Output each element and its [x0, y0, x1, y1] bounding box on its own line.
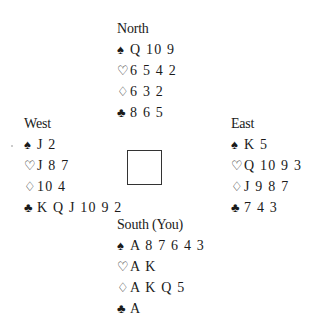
suit-row-spades: ♠A 8 7 6 4 3: [117, 235, 205, 256]
hand-south: South (You) ♠A 8 7 6 4 3 ♡A K ♢A K Q 5 ♣…: [117, 214, 205, 319]
cards-clubs: A: [130, 301, 141, 316]
suit-row-spades: ♠Q 10 9: [117, 39, 177, 60]
hand-west: West ♠J 2 ♡J 8 7 ♢10 4 ♣K Q J 10 9 2: [24, 113, 123, 218]
diamond-icon: ♢: [24, 176, 37, 197]
club-icon: ♣: [117, 298, 130, 319]
suit-row-hearts: ♡J 8 7: [24, 155, 123, 176]
spade-icon: ♠: [117, 235, 130, 256]
seat-label-west: West: [24, 113, 123, 134]
cards-clubs: K Q J 10 9 2: [37, 200, 123, 215]
seat-label-north: North: [117, 18, 177, 39]
heart-icon: ♡: [117, 256, 130, 277]
club-icon: ♣: [24, 197, 37, 218]
cards-spades: A 8 7 6 4 3: [130, 238, 205, 253]
suit-row-diamonds: ♢A K Q 5: [117, 277, 205, 298]
suit-row-diamonds: ♢J 9 8 7: [231, 176, 302, 197]
suit-row-spades: ♠K 5: [231, 134, 302, 155]
heart-icon: ♡: [24, 155, 37, 176]
cards-clubs: 8 6 5: [130, 105, 164, 120]
cards-hearts: A K: [130, 259, 157, 274]
heart-icon: ♡: [117, 60, 130, 81]
cards-diamonds: A K Q 5: [130, 280, 185, 295]
diamond-icon: ♢: [117, 81, 130, 102]
cards-spades: J 2: [37, 137, 57, 152]
cards-diamonds: 6 3 2: [130, 84, 164, 99]
cards-diamonds: J 9 8 7: [244, 179, 289, 194]
seat-label-east: East: [231, 113, 302, 134]
suit-row-diamonds: ♢6 3 2: [117, 81, 177, 102]
cards-spades: Q 10 9: [130, 42, 175, 57]
suit-row-clubs: ♣A: [117, 298, 205, 319]
spade-icon: ♠: [117, 39, 130, 60]
cards-diamonds: 10 4: [37, 179, 66, 194]
cards-hearts: J 8 7: [37, 158, 69, 173]
table-center-square: [127, 150, 162, 185]
spade-icon: ♠: [24, 134, 37, 155]
suit-row-hearts: ♡Q 10 9 3: [231, 155, 302, 176]
seat-label-south: South (You): [117, 214, 205, 235]
hand-east: East ♠K 5 ♡Q 10 9 3 ♢J 9 8 7 ♣7 4 3: [231, 113, 302, 218]
cards-clubs: 7 4 3: [244, 200, 278, 215]
suit-row-spades: ♠J 2: [24, 134, 123, 155]
cards-hearts: 6 5 4 2: [130, 63, 177, 78]
suit-row-clubs: ♣K Q J 10 9 2: [24, 197, 123, 218]
suit-row-clubs: ♣7 4 3: [231, 197, 302, 218]
suit-row-hearts: ♡6 5 4 2: [117, 60, 177, 81]
cards-spades: K 5: [244, 137, 268, 152]
spade-icon: ♠: [231, 134, 244, 155]
club-icon: ♣: [231, 197, 244, 218]
cards-hearts: Q 10 9 3: [244, 158, 302, 173]
suit-row-hearts: ♡A K: [117, 256, 205, 277]
diamond-icon: ♢: [231, 176, 244, 197]
diamond-icon: ♢: [117, 277, 130, 298]
suit-row-diamonds: ♢10 4: [24, 176, 123, 197]
suit-row-clubs: ♣8 6 5: [117, 102, 177, 123]
heart-icon: ♡: [231, 155, 244, 176]
stray-mark: [11, 145, 13, 147]
hand-north: North ♠Q 10 9 ♡6 5 4 2 ♢6 3 2 ♣8 6 5: [117, 18, 177, 123]
